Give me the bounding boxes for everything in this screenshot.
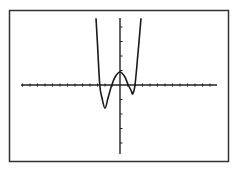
graph-screen bbox=[0, 0, 234, 169]
function-plot bbox=[0, 0, 234, 169]
screen-frame bbox=[10, 11, 229, 162]
